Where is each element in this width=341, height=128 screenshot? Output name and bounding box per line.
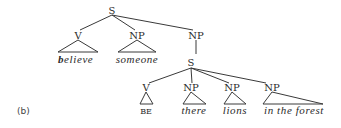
node-np-clause: NP <box>188 30 204 41</box>
node-np-lions: NP <box>224 82 240 93</box>
triangle-believe <box>58 40 98 52</box>
triangle-someone <box>118 40 156 52</box>
leaf-someone: someone <box>116 53 159 65</box>
leaf-there: there <box>181 104 206 116</box>
syntax-tree-diagram: S V NP NP S V NP NP NP believe someone B… <box>0 0 341 128</box>
edge-s-v <box>80 15 112 30</box>
leaf-in-the-forest: in the forest <box>264 104 324 116</box>
triangle-lions <box>224 92 246 104</box>
node-np-someone: NP <box>129 30 145 41</box>
edge-s2-v2 <box>149 68 191 83</box>
node-v: V <box>73 30 82 41</box>
figure-label: (b) <box>17 106 30 116</box>
triangle-in-the-forest <box>263 92 323 104</box>
node-v-be: V <box>141 82 150 93</box>
triangle-be <box>140 92 153 104</box>
node-np-there: NP <box>183 82 199 93</box>
node-np-forest: NP <box>264 82 280 93</box>
leaf-believe-rest: elieve <box>64 53 93 65</box>
triangle-there <box>183 92 206 104</box>
edge-s2-np4 <box>191 68 229 83</box>
leaf-lions: lions <box>223 104 247 116</box>
node-s-embedded: S <box>188 57 195 68</box>
edge-s2-np5 <box>191 68 266 83</box>
leaf-believe: believe <box>58 53 93 65</box>
node-s-root: S <box>109 5 116 16</box>
edge-s2-np3 <box>191 68 192 83</box>
leaf-be: BE <box>140 107 152 116</box>
